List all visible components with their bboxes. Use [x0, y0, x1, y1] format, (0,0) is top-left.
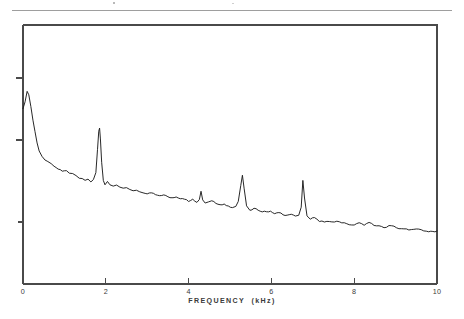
x-tick-label-10: 10	[433, 287, 442, 296]
x-tick-label-8: 8	[352, 287, 356, 296]
x-axis-ticks	[23, 278, 437, 284]
x-tick-label-6: 6	[269, 287, 273, 296]
spectrum-plot: 0 2 4 6 8 10	[0, 0, 464, 319]
x-tick-label-2: 2	[104, 287, 108, 296]
x-axis-title: FREQUENCY (kHz)	[0, 297, 464, 305]
y-axis-ticks	[16, 78, 23, 222]
x-axis-tick-labels: 0 2 4 6 8 10	[21, 287, 441, 296]
x-tick-label-4: 4	[186, 287, 190, 296]
figure-root: 0 2 4 6 8 10 FREQUENCY (kHz)	[0, 0, 464, 319]
plot-frame-top-right	[23, 25, 437, 284]
x-tick-label-0: 0	[21, 287, 25, 296]
spectrum-trace	[23, 91, 437, 232]
